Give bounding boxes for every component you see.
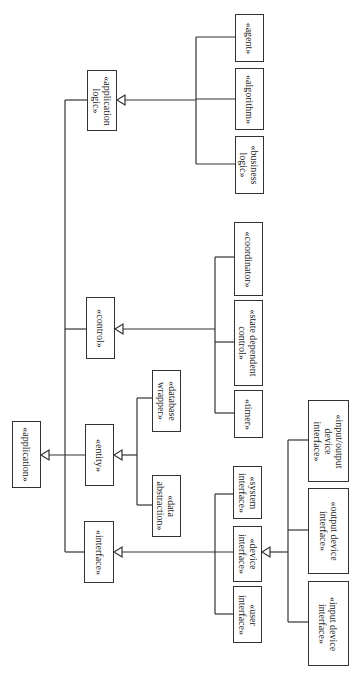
node-database-wrapper: «database wrapper»	[152, 370, 181, 432]
node-label: «application»	[21, 427, 32, 481]
node-business-logic: «business logic»	[235, 136, 264, 194]
node-entity: «entity»	[85, 424, 114, 486]
node-data-abstraction: «data abstraction»	[152, 475, 181, 537]
node-label: «application logic»	[91, 76, 113, 125]
node-label: «timer»	[243, 398, 254, 429]
node-label: «data abstraction»	[156, 482, 178, 531]
node-system-interface: «system interface»	[233, 466, 262, 519]
node-input-device-interface: «input device interface»	[308, 581, 349, 666]
node-agent: «agent»	[235, 14, 264, 62]
connector-lines	[0, 0, 359, 692]
node-interface: «interface»	[84, 521, 114, 583]
generalization-arrow-device-interface	[262, 547, 270, 557]
node-application: «application»	[12, 421, 41, 488]
node-label: «algorithm»	[244, 75, 255, 124]
node-label: «business logic»	[239, 146, 261, 185]
node-device-interface: «device interface»	[233, 526, 262, 582]
node-control: «control»	[86, 297, 115, 359]
node-label: «database wrapper»	[156, 381, 178, 420]
node-coordinator: «coordinator»	[234, 222, 263, 296]
generalization-arrow-entity	[114, 450, 122, 460]
node-timer: «timer»	[234, 390, 263, 438]
node-application-logic: «application logic»	[87, 70, 117, 131]
generalization-arrow-control	[115, 324, 123, 334]
generalization-arrow-application	[41, 450, 49, 460]
node-label: «user interface»	[237, 595, 259, 635]
node-label: «interface»	[94, 530, 105, 575]
node-state-dependent-control: «state dependent control»	[234, 300, 263, 386]
node-label: «state dependent control»	[238, 310, 260, 377]
node-label: «input/output device interface»	[312, 414, 345, 468]
node-label: «device interface»	[237, 534, 259, 574]
node-output-device-interface: «output device interface»	[308, 488, 349, 574]
node-label: «entity»	[94, 439, 105, 472]
node-label: «input device interface»	[318, 596, 340, 650]
node-user-interface: «user interface»	[233, 586, 262, 643]
generalization-arrow-application-logic	[117, 95, 125, 105]
node-label: «control»	[95, 309, 106, 347]
node-label: «output device interface»	[318, 501, 340, 560]
node-label: «coordinator»	[243, 231, 254, 287]
generalization-arrow-interface	[114, 547, 122, 557]
node-label: «agent»	[244, 22, 255, 54]
node-algorithm: «algorithm»	[235, 68, 264, 130]
node-label: «system interface»	[237, 473, 259, 513]
node-io-device-interface: «input/output device interface»	[308, 400, 349, 482]
